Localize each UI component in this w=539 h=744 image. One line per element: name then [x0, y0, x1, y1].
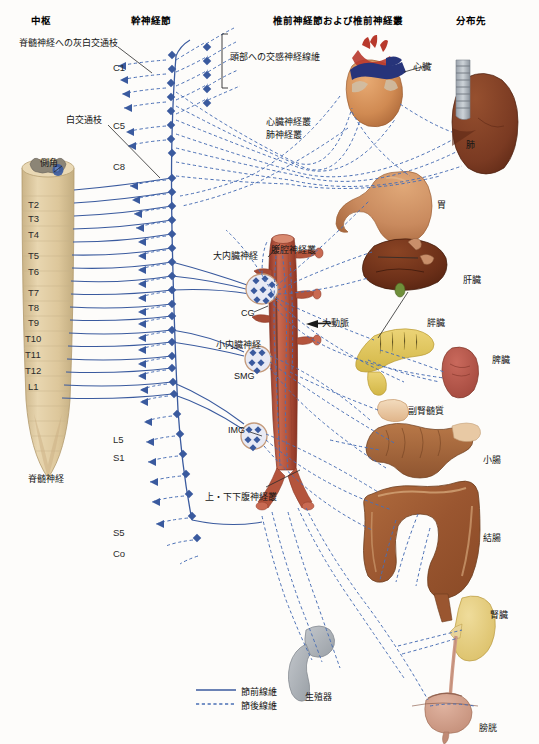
legend-preganglionic-label: 節前線維	[241, 685, 277, 698]
label-head-sympathetic-fibers: 頭部への交感神経線維	[230, 52, 320, 63]
label-aorta: 大動脈	[322, 318, 349, 329]
segment-s5: S5	[113, 527, 125, 538]
label-lung: 肺	[466, 140, 475, 151]
header-prevertebral: 椎前神経節および椎前神経叢	[273, 13, 403, 27]
segment-t9: T9	[28, 317, 39, 328]
label-white-rami: 白交通枝	[66, 115, 102, 126]
segment-c8: C8	[113, 161, 125, 172]
prevertebral-ganglia	[241, 274, 278, 451]
legend-sample-lines	[196, 690, 236, 704]
segment-t2: T2	[28, 199, 39, 210]
segment-t6: T6	[28, 266, 39, 277]
segment-c1: C1	[113, 62, 125, 73]
label-colon: 結腸	[483, 533, 501, 544]
segment-l5: L5	[113, 434, 124, 445]
callout-leader-lines	[54, 47, 432, 487]
segment-t11: T11	[25, 349, 41, 360]
label-spinal-nerve: 脊髄神経	[28, 474, 64, 485]
sympathetic-nervous-system-diagram: 中枢 幹神経節 椎前神経節および椎前神経叢 分布先 脊髄神経への灰白交通枝 頭部…	[0, 0, 539, 744]
label-stomach: 胃	[437, 200, 446, 211]
segment-t7: T7	[28, 287, 39, 298]
label-lesser-splanchnic-nerve: 小内臓神経	[216, 340, 261, 351]
label-heart: 心臓	[413, 62, 431, 73]
head-fibers-bracket	[222, 34, 228, 88]
header-targets: 分布先	[456, 13, 486, 27]
label-cardiac-plexus: 心臓神経叢	[266, 117, 311, 128]
label-spleen: 脾臓	[492, 355, 510, 366]
label-kidney: 腎臓	[490, 610, 508, 621]
label-small-intestine: 小腸	[483, 455, 501, 466]
label-superior-mesenteric-ganglion: SMG	[234, 371, 255, 382]
segment-t8: T8	[28, 302, 39, 313]
segment-s1: S1	[113, 452, 125, 463]
chain-ganglia-nodes	[167, 43, 211, 542]
label-inferior-mesenteric-ganglion: IMG	[228, 425, 245, 436]
label-hypogastric-plexus: 上・下下腹神経叢	[205, 492, 277, 503]
nerve-fiber-layer	[0, 0, 539, 744]
label-bladder: 膀胱	[479, 723, 497, 734]
legend-postganglionic-label: 節後線維	[241, 699, 277, 712]
label-greater-splanchnic-nerve: 大内臓神経	[213, 251, 258, 262]
segment-t10: T10	[25, 333, 41, 344]
segment-c5: C5	[113, 120, 125, 131]
segment-l1: L1	[28, 381, 39, 392]
label-gray-white-rami: 脊髄神経への灰白交通枝	[19, 38, 118, 49]
label-celiac-plexus: 腹腔神経叢	[271, 245, 316, 256]
fiber-arrowheads	[118, 62, 164, 528]
label-celiac-ganglion: CG	[241, 308, 255, 319]
label-lateral-horn: 側角	[40, 158, 58, 169]
label-liver: 肝臓	[463, 275, 481, 286]
segment-t12: T12	[25, 365, 41, 376]
header-center: 中枢	[31, 13, 51, 27]
segment-t3: T3	[28, 213, 39, 224]
segment-t4: T4	[28, 229, 39, 240]
segment-t5: T5	[28, 250, 39, 261]
label-adrenal-medulla: 副腎髄質	[408, 406, 444, 417]
header-trunk-ganglia: 幹神経節	[131, 13, 171, 27]
segment-co: Co	[113, 548, 125, 559]
preganglionic-fibers	[62, 40, 262, 525]
label-pulmonary-plexus: 肺神経叢	[266, 130, 302, 141]
label-gonad: 生殖器	[305, 692, 332, 703]
label-pancreas: 膵臓	[427, 318, 445, 329]
